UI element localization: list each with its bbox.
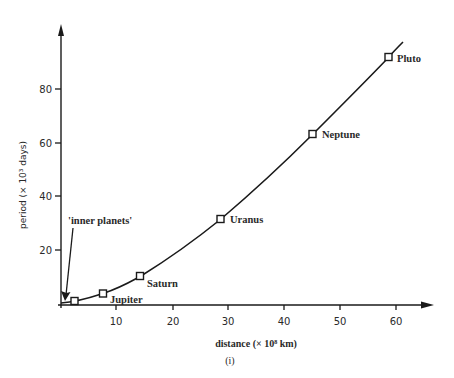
marker-uranus	[217, 216, 224, 223]
fitted-curve	[61, 42, 403, 303]
x-tick-50: 50	[334, 316, 347, 327]
x-tick-40: 40	[278, 316, 291, 327]
y-tick-60: 60	[39, 138, 52, 149]
y-tick-40: 40	[39, 191, 52, 202]
x-axis-arrow-icon	[421, 302, 434, 309]
x-tick-30: 30	[222, 316, 235, 327]
y-tick-80: 80	[39, 84, 52, 95]
figure-caption: (i)	[225, 355, 234, 367]
label-uranus: Uranus	[230, 214, 263, 225]
inner-planets-arrow-icon	[66, 228, 73, 295]
label-inner-planets: 'inner planets'	[68, 215, 132, 226]
y-axis: 80 60 40 20 period (× 10³ days)	[18, 24, 64, 308]
x-axis-title: distance (× 10⁸ km)	[215, 338, 297, 350]
marker-inner-planets	[71, 298, 78, 305]
marker-pluto	[385, 54, 392, 61]
data-markers	[71, 54, 392, 305]
marker-neptune	[309, 131, 316, 138]
y-axis-title: period (× 10³ days)	[18, 141, 28, 229]
label-saturn: Saturn	[147, 278, 178, 289]
label-pluto: Pluto	[397, 53, 421, 64]
x-axis: 10 20 30 40 50 60 distance (× 10⁸ km) (i…	[58, 302, 434, 368]
y-tick-20: 20	[39, 245, 52, 256]
label-jupiter: Jupiter	[110, 294, 143, 305]
marker-jupiter	[100, 290, 107, 297]
x-tick-60: 60	[390, 316, 403, 327]
x-tick-10: 10	[110, 316, 123, 327]
x-tick-20: 20	[167, 316, 180, 327]
label-neptune: Neptune	[322, 129, 360, 140]
y-axis-arrow-icon	[58, 24, 64, 36]
marker-saturn	[137, 273, 144, 280]
chart: 80 60 40 20 period (× 10³ days) 10 20 30…	[0, 0, 454, 378]
